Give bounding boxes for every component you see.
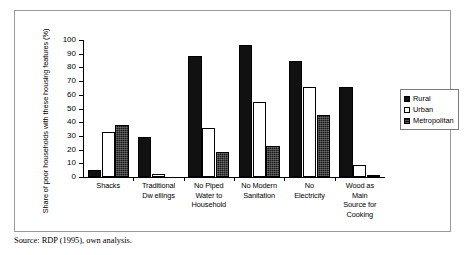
bar-urban bbox=[253, 102, 266, 177]
y-axis-tick-label: 80 bbox=[54, 63, 76, 71]
bar-urban bbox=[303, 87, 316, 177]
bar-rural bbox=[88, 170, 101, 177]
x-axis-category-labels: ShacksTraditionalDw ellingsNo PipedWater… bbox=[83, 181, 385, 233]
legend-item-urban: Urban bbox=[404, 104, 454, 115]
legend-label-urban: Urban bbox=[413, 105, 433, 114]
x-axis-label: Wood asMainSource forCooking bbox=[329, 181, 391, 219]
bar-urban bbox=[102, 132, 115, 177]
bar-rural bbox=[339, 87, 352, 177]
y-axis-tick-label: 40 bbox=[54, 118, 76, 126]
legend-swatch-urban-icon bbox=[404, 107, 410, 113]
legend-swatch-rural-icon bbox=[404, 96, 410, 102]
bar-metro bbox=[115, 125, 128, 177]
bar-rural bbox=[188, 56, 201, 177]
y-axis-tick-label: 10 bbox=[54, 159, 76, 167]
legend-label-metropolitan: Metropolitan bbox=[413, 116, 454, 125]
y-axis-tick-label: 90 bbox=[54, 50, 76, 58]
y-axis-tick-label: 0 bbox=[54, 173, 76, 181]
bar-group bbox=[234, 40, 284, 177]
y-axis-tick-label: 70 bbox=[54, 77, 76, 85]
chart-legend: Rural Urban Metropolitan bbox=[400, 89, 459, 130]
bar-urban bbox=[152, 174, 165, 177]
legend-item-metropolitan: Metropolitan bbox=[404, 115, 454, 126]
bar-metro bbox=[266, 146, 279, 178]
y-axis-tick bbox=[79, 177, 83, 178]
y-axis-tick-label: 30 bbox=[54, 132, 76, 140]
source-note: Source: RDP (1995), own analysis. bbox=[14, 236, 132, 246]
y-axis-title: Share of poor households with these hous… bbox=[39, 23, 53, 219]
legend-label-rural: Rural bbox=[413, 94, 431, 103]
bar-metro bbox=[216, 152, 229, 177]
bar-metro bbox=[367, 175, 380, 177]
plot-area: 1009080706050403020100 bbox=[83, 40, 385, 178]
y-axis-tick-label: 20 bbox=[54, 146, 76, 154]
chart-frame: Share of poor households with these hous… bbox=[14, 10, 451, 232]
bar-group bbox=[83, 40, 133, 177]
bar-metro bbox=[317, 115, 330, 177]
bar-group bbox=[335, 40, 385, 177]
bar-rural bbox=[239, 45, 252, 177]
bar-group bbox=[184, 40, 234, 177]
bar-urban bbox=[202, 128, 215, 177]
legend-swatch-metropolitan-icon bbox=[404, 118, 410, 124]
bar-rural bbox=[289, 61, 302, 177]
legend-item-rural: Rural bbox=[404, 93, 454, 104]
y-axis-tick-label: 50 bbox=[54, 105, 76, 113]
bar-group bbox=[133, 40, 183, 177]
bar-rural bbox=[138, 137, 151, 177]
chart-page: Share of poor households with these hous… bbox=[0, 0, 465, 255]
y-axis-tick-label: 100 bbox=[54, 36, 76, 44]
bar-group bbox=[284, 40, 334, 177]
y-axis-tick-label: 60 bbox=[54, 91, 76, 99]
bar-urban bbox=[353, 165, 366, 177]
